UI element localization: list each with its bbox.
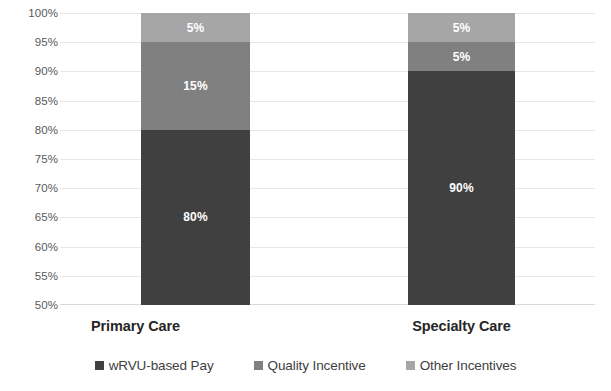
bar-segment-wrvu-based-pay[interactable]: 90% [408,71,515,305]
y-axis-tick-100: 100% [0,7,58,19]
legend-item-other-incentives[interactable]: Other Incentives [406,358,517,373]
bar-segment-other-incentives[interactable]: 5% [141,13,250,42]
y-axis-tick-70: 70% [0,182,58,194]
bar-segment-wrvu-based-pay[interactable]: 80% [141,130,250,305]
legend: wRVU-based Pay Quality Incentive Other I… [0,358,611,373]
legend-item-wrvu-based-pay[interactable]: wRVU-based Pay [95,358,214,373]
bar-segment-quality-incentive[interactable]: 5% [408,42,515,71]
y-axis-tick-90: 90% [0,65,58,77]
bar-segment-label: 5% [408,51,515,63]
y-axis-tick-80: 80% [0,124,58,136]
y-axis-tick-65: 65% [0,211,58,223]
legend-swatch-icon [406,361,415,370]
category-label-specialty-care: Specialty Care [408,318,515,334]
y-axis: 100% 95% 90% 85% 80% 75% 70% 65% 60% 55%… [0,0,58,391]
y-axis-tick-75: 75% [0,153,58,165]
category-label-primary-care: Primary Care [81,318,190,334]
bar-segment-label: 5% [141,22,250,34]
bar-segment-other-incentives[interactable]: 5% [408,13,515,42]
legend-label: Quality Incentive [268,358,366,373]
bar-segment-quality-incentive[interactable]: 15% [141,42,250,130]
legend-label: wRVU-based Pay [109,358,214,373]
y-axis-tick-85: 85% [0,95,58,107]
y-axis-tick-55: 55% [0,270,58,282]
y-axis-tick-95: 95% [0,36,58,48]
legend-label: Other Incentives [420,358,517,373]
y-axis-tick-50: 50% [0,299,58,311]
bar-segment-label: 5% [408,22,515,34]
legend-swatch-icon [95,361,104,370]
legend-item-quality-incentive[interactable]: Quality Incentive [254,358,366,373]
stacked-bar-chart: 100% 95% 90% 85% 80% 75% 70% 65% 60% 55%… [0,0,611,391]
bar-segment-label: 80% [141,211,250,223]
bar-specialty-care[interactable]: 90% 5% 5% [408,13,515,305]
plot-area: 80% 15% 5% 90% 5% 5% [60,13,595,305]
bar-primary-care[interactable]: 80% 15% 5% [141,13,250,305]
bar-segment-label: 90% [408,182,515,194]
y-axis-tick-60: 60% [0,241,58,253]
bar-segment-label: 15% [141,80,250,92]
legend-swatch-icon [254,361,263,370]
